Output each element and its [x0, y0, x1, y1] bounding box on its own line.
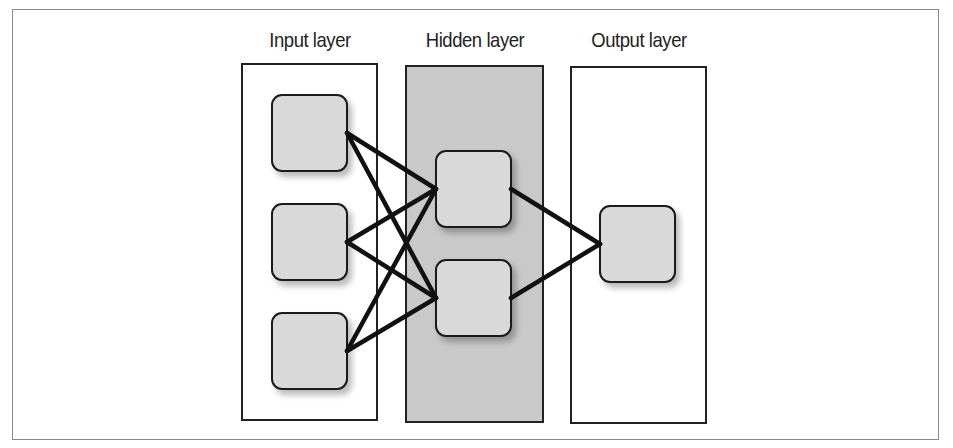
edge-hidden1-output1 [511, 189, 600, 244]
connection-edges [0, 0, 953, 448]
edge-hidden2-output1 [511, 244, 600, 298]
